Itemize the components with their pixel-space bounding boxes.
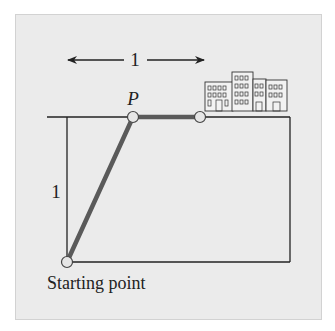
horizontal-dimension-label: 1 <box>130 49 140 70</box>
diagram: 1 1 P Starting point <box>0 0 335 331</box>
starting-point-label: Starting point <box>47 273 146 293</box>
point-p-label: P <box>126 88 139 109</box>
start-point-node <box>62 257 73 268</box>
city-buildings-icon <box>205 72 287 111</box>
end-point-node <box>195 112 206 123</box>
route-path <box>67 117 200 262</box>
point-p-node <box>128 112 139 123</box>
field-rectangle <box>47 117 290 262</box>
vertical-dimension-label: 1 <box>51 181 61 202</box>
